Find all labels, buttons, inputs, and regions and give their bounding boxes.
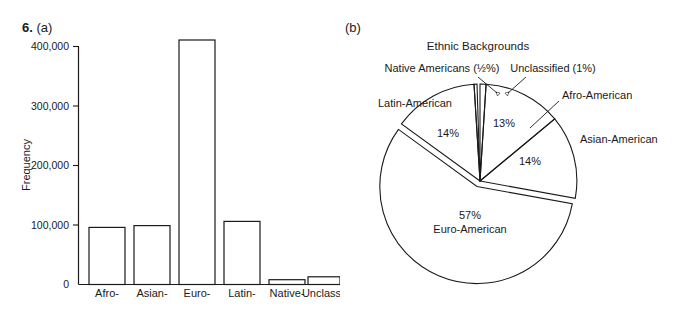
figure-container: 6. (a) (b) Frequency 400,000 300,000 200… (0, 0, 673, 312)
pie-pct-latin-american: 14% (437, 127, 459, 139)
pie-label-asian-american: Asian-American (580, 133, 658, 145)
bar-chart: Frequency 400,000 300,000 200,000 100,00… (0, 0, 340, 312)
pie-pct-afro-american: 13% (493, 117, 515, 129)
pie-chart-title: Ethnic Backgrounds (427, 40, 530, 52)
x-label-latin: Latin- (228, 287, 256, 299)
bar-afro (89, 227, 125, 284)
pie-pct-euro-american: 57% (459, 209, 481, 221)
y-tick-label-300000: 300,000 (31, 100, 69, 112)
y-tick-label-0: 0 (63, 278, 69, 290)
callout-label-native-americans: Native Americans (½%) (385, 62, 500, 74)
y-tick-label-400000: 400,000 (31, 40, 69, 52)
pie-slice-afro-american (480, 84, 555, 181)
pie-label-euro-american: Euro-American (433, 223, 506, 235)
x-label-afro: Afro- (95, 287, 119, 299)
x-label-asian: Asian- (136, 287, 168, 299)
bar-asian (134, 226, 170, 285)
bar-native (269, 280, 305, 285)
pie-label-latin-american: Latin-American (378, 97, 452, 109)
pie-slice-euro-american-group (380, 129, 572, 283)
bar-latin (224, 221, 260, 284)
y-tick-label-100000: 100,000 (31, 219, 69, 231)
leader-line-unclassified (508, 77, 526, 93)
pie-chart: Ethnic Backgrounds Native Americans (½%)… (330, 0, 673, 312)
x-label-native: Native- (270, 287, 305, 299)
bar-euro (179, 40, 215, 285)
callout-label-unclassified: Unclassified (1%) (510, 62, 596, 74)
x-label-euro: Euro- (184, 287, 211, 299)
leader-line-afro-american (530, 101, 559, 128)
pie-pct-asian-american: 14% (519, 155, 541, 167)
y-tick-label-200000: 200,000 (31, 159, 69, 171)
pie-slice-native-americans (474, 84, 480, 181)
pie-label-afro-american: Afro-American (562, 89, 632, 101)
pie-slice-euro-american (380, 129, 572, 283)
y-axis-ticks (73, 47, 79, 226)
